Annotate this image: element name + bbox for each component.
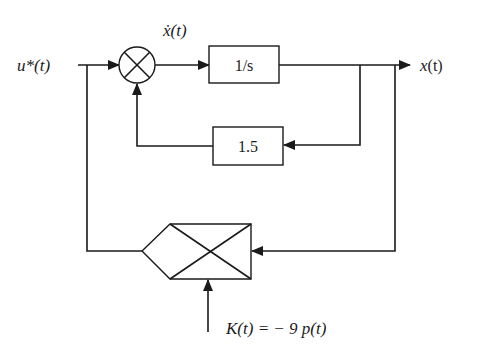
output-label: x(t) — [419, 56, 443, 75]
inner-feedback-line — [284, 65, 360, 145]
block-diagram: 1/s 1.5 u*(t) ẋ(t) x(t) K(t) = − 9 p(t) — [0, 0, 478, 353]
feedback-gain-block: 1.5 — [213, 127, 283, 165]
multiplier-output-line — [87, 65, 142, 251]
integrator-block: 1/s — [209, 46, 279, 83]
multiplier-block — [142, 224, 251, 279]
inner-feedback-return-line — [137, 84, 213, 146]
derivative-label: ẋ(t) — [162, 21, 187, 40]
integrator-label: 1/s — [235, 57, 254, 74]
feedback-gain-label: 1.5 — [238, 138, 258, 155]
summing-junction — [119, 47, 155, 83]
input-label: u*(t) — [17, 56, 50, 75]
gain-expression-label: K(t) = − 9 p(t) — [225, 319, 327, 338]
